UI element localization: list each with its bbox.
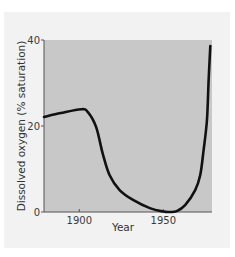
y-tick-label: 40 <box>27 35 40 46</box>
x-tick-label: 1950 <box>151 215 176 226</box>
y-tick-label: 20 <box>27 121 40 132</box>
x-axis-label: Year <box>111 221 135 233</box>
plot-area <box>44 40 212 212</box>
line-chart: 0204019001950 Year Dissolved oxygen (% s… <box>0 0 235 257</box>
x-tick-label: 1900 <box>67 215 92 226</box>
y-tick-label: 0 <box>34 207 40 218</box>
y-axis-label: Dissolved oxygen (% saturation) <box>15 41 27 212</box>
